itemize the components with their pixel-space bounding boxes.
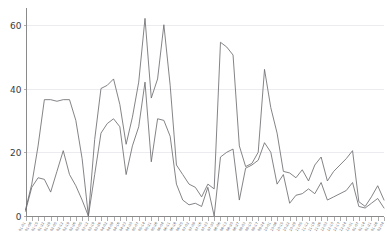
y-axis: 0204060 <box>10 8 26 222</box>
x-axis <box>27 217 385 221</box>
y-tick-label: 0 <box>16 212 22 222</box>
y-tick-label: 40 <box>10 85 22 95</box>
y-tick-label: 60 <box>10 21 22 31</box>
line-chart: 0204060 01-0101-0801-1501-2201-2902-0502… <box>0 0 387 250</box>
x-tick-labels: 01-0101-0801-1501-2201-2902-0502-1202-19… <box>18 222 385 233</box>
series-line-series-2 <box>26 82 385 216</box>
y-tick-label: 20 <box>10 148 22 158</box>
chart-canvas: 0204060 01-0101-0801-1501-2201-2902-0502… <box>0 0 387 250</box>
series-lines <box>26 18 385 216</box>
series-line-series-1 <box>26 18 385 216</box>
gridlines <box>26 26 385 217</box>
